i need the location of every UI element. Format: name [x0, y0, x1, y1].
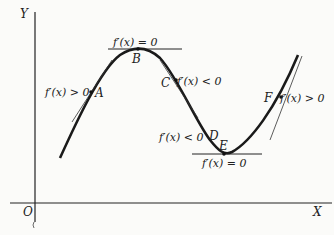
derivative-sign-diagram: Y X O A B C D E F f′(x) > 0 f′(x) = 0 f′…	[0, 0, 334, 235]
annotation-d: f′(x) < 0	[158, 131, 204, 144]
point-e-label: E	[218, 139, 228, 153]
point-b-label: B	[131, 52, 141, 66]
x-axis-label: X	[312, 205, 322, 219]
annotation-e: f′(x) = 0	[201, 157, 247, 170]
diagram-canvas: Y X O A B C D E F f′(x) > 0 f′(x) = 0 f′…	[0, 0, 334, 235]
y-axis-label: Y	[20, 7, 29, 21]
annotation-a: f′(x) > 0	[44, 86, 90, 99]
point-a-label: A	[94, 86, 104, 100]
point-a-marker	[89, 90, 93, 94]
point-d-label: D	[208, 129, 219, 143]
point-f-label: F	[263, 91, 273, 105]
axis-tail-mark	[33, 222, 34, 228]
annotation-f: f′(x) > 0	[279, 92, 325, 105]
origin-label: O	[23, 205, 33, 219]
point-c-label: C	[161, 76, 170, 90]
annotation-b: f′(x) = 0	[112, 36, 158, 49]
annotation-c: f′(x) < 0	[176, 75, 222, 88]
